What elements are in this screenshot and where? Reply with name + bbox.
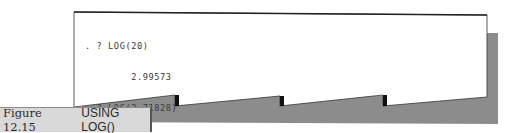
figure-title: USING LOG() [81, 106, 150, 133]
notch-3 [383, 95, 387, 106]
result-line: 2.99573 [85, 72, 224, 82]
notch-2 [280, 96, 284, 106]
figure-caption: Figure 12.15 USING LOG() [0, 107, 152, 132]
command-line: . ? LOG(20) [85, 41, 224, 51]
figure-number: Figure 12.15 [3, 106, 72, 133]
